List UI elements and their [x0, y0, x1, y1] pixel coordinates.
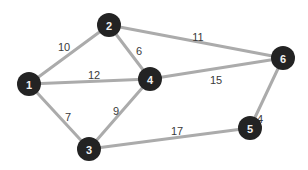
node-label: 5 [247, 123, 253, 135]
node-label: 6 [280, 53, 286, 65]
edge-weight-label: 6 [136, 45, 142, 57]
node-3: 3 [77, 137, 101, 161]
edge-weight-label: 11 [192, 31, 203, 43]
node-label: 2 [106, 20, 112, 32]
node-label: 4 [147, 74, 154, 86]
graph-diagram: 10127611159174 123456 [0, 0, 308, 170]
edge-weight-label: 10 [58, 41, 70, 53]
edge-weight-label: 12 [88, 69, 100, 81]
node-6: 6 [271, 46, 295, 70]
node-5: 5 [238, 116, 262, 140]
node-4: 4 [138, 67, 162, 91]
node-1: 1 [17, 72, 41, 96]
node-label: 3 [86, 144, 92, 156]
node-label: 1 [26, 79, 32, 91]
edge-4-3 [89, 79, 150, 149]
edge-weight-label: 9 [113, 105, 119, 117]
node-2: 2 [97, 13, 121, 37]
edge-1-3 [29, 84, 89, 149]
edge-weight-label: 7 [65, 111, 71, 123]
edge-weight-label: 17 [171, 125, 183, 137]
edge-3-5 [89, 128, 250, 149]
edge-weight-label: 15 [210, 74, 222, 86]
graph-canvas: 10127611159174 123456 [0, 0, 308, 170]
